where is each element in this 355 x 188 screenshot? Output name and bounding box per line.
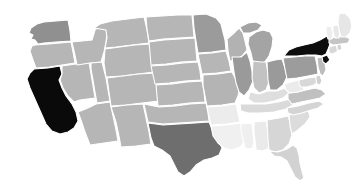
state-north-dakota[interactable] — [146, 15, 194, 41]
us-states-map[interactable] — [0, 0, 355, 188]
choropleth-map-container — [0, 0, 355, 188]
state-arkansas[interactable] — [207, 104, 240, 125]
state-rhode-island[interactable] — [337, 44, 342, 51]
state-oklahoma[interactable] — [144, 103, 209, 124]
state-iowa[interactable] — [198, 51, 231, 74]
state-nebraska[interactable] — [151, 62, 201, 84]
state-kansas[interactable] — [156, 81, 205, 106]
state-pennsylvania[interactable] — [283, 56, 318, 79]
state-indiana[interactable] — [252, 61, 269, 93]
state-oregon[interactable] — [30, 42, 75, 68]
state-colorado[interactable] — [107, 73, 159, 106]
state-vermont[interactable] — [326, 26, 333, 39]
state-south-dakota[interactable] — [149, 38, 197, 65]
state-wyoming[interactable] — [104, 44, 154, 77]
